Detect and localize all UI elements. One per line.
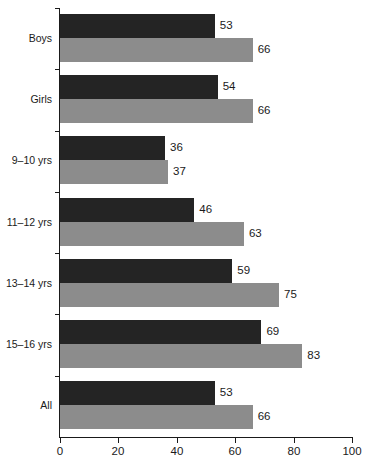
bar-row: 66 [0,38,366,62]
bar [60,99,253,123]
bar-row: 63 [0,222,366,246]
category-label: 15–16 yrs [0,339,52,350]
bar [60,405,253,429]
bar-value-label: 36 [170,142,183,154]
bar-row: 69 [0,320,366,344]
bar-value-label: 59 [237,265,250,277]
bar-group: 6983 [0,320,366,368]
bar-value-label: 69 [266,326,279,338]
y-axis-tick [55,253,60,254]
bar [60,38,253,62]
category-label: Boys [0,33,52,44]
x-axis-tick [177,438,178,443]
x-axis-tick-label: 20 [98,446,138,458]
category-label: Girls [0,94,52,105]
x-axis-tick [60,438,61,443]
bar-value-label: 66 [258,105,271,117]
x-axis-tick-label: 0 [40,446,80,458]
category-label: 13–14 yrs [0,278,52,289]
bar [60,381,215,405]
bar-group: 4663 [0,198,366,246]
bar-group: 5466 [0,75,366,123]
bar-row: 59 [0,259,366,283]
x-axis-tick-label: 40 [157,446,197,458]
bar-chart: 5366546636374663597569835366 BoysGirls9–… [0,0,366,465]
x-axis-tick [118,438,119,443]
bar [60,198,194,222]
x-axis-tick [294,438,295,443]
x-axis-tick-label: 80 [274,446,314,458]
x-axis-tick-label: 100 [332,446,366,458]
bar [60,320,261,344]
category-label: All [0,400,52,411]
category-label: 9–10 yrs [0,155,52,166]
bar-row: 75 [0,283,366,307]
bar-value-label: 54 [223,81,236,93]
bar [60,75,218,99]
bar-row: 83 [0,344,366,368]
bar-group: 3637 [0,136,366,184]
bar [60,136,165,160]
bar-value-label: 66 [258,412,271,424]
bar-group: 5366 [0,14,366,62]
bar-value-label: 63 [249,228,262,240]
y-axis-tick [55,131,60,132]
y-axis-tick [55,376,60,377]
bar-value-label: 83 [307,350,320,362]
y-axis-tick [55,8,60,9]
category-label: 11–12 yrs [0,217,52,228]
x-axis-tick-label: 60 [215,446,255,458]
bar-value-label: 53 [220,20,233,32]
bar-group: 5975 [0,259,366,307]
bar [60,160,168,184]
bar-value-label: 66 [258,44,271,56]
bar [60,14,215,38]
bar-row: 53 [0,14,366,38]
y-axis-tick [55,314,60,315]
bar-row: 54 [0,75,366,99]
x-axis-tick [352,438,353,443]
bar-row: 66 [0,99,366,123]
y-axis-tick [55,192,60,193]
bar-value-label: 53 [220,388,233,400]
bar-value-label: 75 [284,289,297,301]
bar [60,283,279,307]
x-axis-line [59,437,353,438]
bar [60,344,302,368]
bar-row: 46 [0,198,366,222]
bar-row: 53 [0,381,366,405]
bar-row: 37 [0,160,366,184]
bar-value-label: 46 [199,204,212,216]
bar-value-label: 37 [173,166,186,178]
bar [60,259,232,283]
bar-row: 66 [0,405,366,429]
bar-group: 5366 [0,381,366,429]
bar [60,222,244,246]
y-axis-tick [55,69,60,70]
x-axis-tick [235,438,236,443]
bar-row: 36 [0,136,366,160]
